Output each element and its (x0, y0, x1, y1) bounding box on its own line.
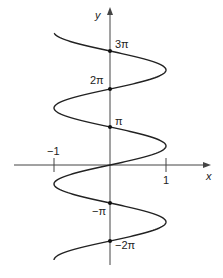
x-tick-label-neg1: −1 (47, 145, 60, 157)
x-axis-label: x (205, 170, 212, 182)
point-3pi (108, 49, 112, 53)
chart-canvas: y x −1 1 3π 2π π −π −2π (0, 0, 223, 278)
point-neg2pi (108, 239, 112, 243)
x-tick-label-pos1: 1 (163, 174, 169, 186)
point-pi (108, 125, 112, 129)
y-label-negpi: −π (92, 205, 106, 217)
x-axis-arrow-icon (203, 162, 211, 168)
sine-curve-chart: y x −1 1 3π 2π π −π −2π (0, 0, 223, 278)
y-label-3pi: 3π (115, 38, 129, 50)
y-label-2pi: 2π (90, 74, 104, 86)
y-axis-arrow-icon (107, 7, 113, 15)
point-2pi (108, 87, 112, 91)
point-negpi (108, 201, 112, 205)
y-label-neg2pi: −2π (115, 239, 136, 251)
y-label-pi: π (115, 115, 123, 127)
y-axis-label: y (94, 9, 102, 21)
